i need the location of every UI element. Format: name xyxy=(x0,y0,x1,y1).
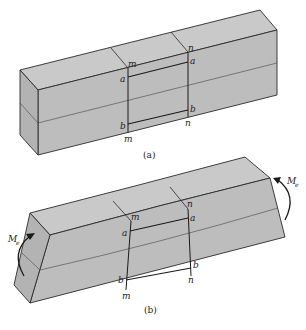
label-a-n-top: n xyxy=(188,43,194,53)
label-a-m-bottom: m xyxy=(124,134,133,144)
label-b-a-right: a xyxy=(190,213,195,223)
beam-bending-figure: m n a a b b m n (a) m n a a b b m xyxy=(0,0,306,330)
moment-right-subscript: e xyxy=(295,181,299,188)
label-b-n-bottom: n xyxy=(188,275,194,285)
label-b-b-left: b xyxy=(118,275,124,285)
caption-b: (b) xyxy=(144,305,157,315)
label-b-m-bottom: m xyxy=(122,291,131,301)
moment-right-arrowhead-icon xyxy=(273,177,281,184)
label-b-n-top: n xyxy=(187,199,193,209)
panel-a-straight-beam: m n a a b b m n (a) xyxy=(20,10,277,160)
label-b-m-top: m xyxy=(131,212,140,222)
label-a-n-bottom: n xyxy=(185,118,191,128)
caption-a: (a) xyxy=(143,150,155,160)
panel-b-bent-beam: m n a a b b m n (b) M e M e xyxy=(7,157,299,315)
label-a-m-top: m xyxy=(128,59,137,69)
moment-left-subscript: e xyxy=(16,239,20,246)
label-a-a-right: a xyxy=(190,56,195,66)
moment-right-curve-icon xyxy=(278,180,290,220)
label-b-b-right: b xyxy=(193,260,199,270)
label-a-b-left: b xyxy=(120,121,126,131)
label-b-a-left: a xyxy=(122,228,127,238)
label-a-a-left: a xyxy=(120,74,125,84)
label-a-b-right: b xyxy=(190,104,196,114)
